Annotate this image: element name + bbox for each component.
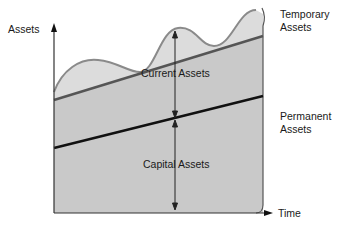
y-axis-label: Assets	[8, 23, 40, 36]
capital-assets-label: Capital Assets	[143, 158, 210, 171]
x-axis-label: Time	[278, 207, 301, 220]
current-assets-label: Current Assets	[141, 67, 210, 80]
